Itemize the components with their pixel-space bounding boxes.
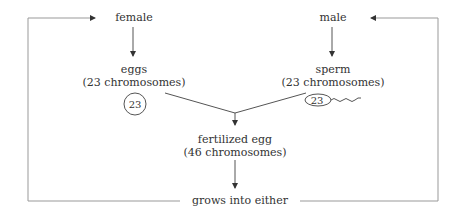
line-eggs-to-merge xyxy=(165,93,235,113)
sperm-title: sperm xyxy=(281,63,384,76)
sperm-subtitle: (23 chromosomes) xyxy=(281,76,384,89)
loop-arrow-right xyxy=(300,18,438,201)
fertilized-subtitle: (46 chromosomes) xyxy=(183,146,286,159)
line-sperm-to-merge xyxy=(235,93,306,113)
node-male: male xyxy=(319,11,346,24)
eggs-title: eggs xyxy=(82,63,185,76)
eggs-subtitle: (23 chromosomes) xyxy=(82,76,185,89)
node-fertilized-egg: fertilized egg (46 chromosomes) xyxy=(183,133,286,159)
egg-cell-icon: 23 xyxy=(124,93,146,115)
node-eggs: eggs (23 chromosomes) xyxy=(82,63,185,89)
node-grows-into-either: grows into either xyxy=(192,194,288,207)
sperm-cell-icon: 23 xyxy=(305,94,361,106)
diagram-canvas: 23 23 xyxy=(0,0,459,216)
fertilized-title: fertilized egg xyxy=(183,133,286,146)
node-sperm: sperm (23 chromosomes) xyxy=(281,63,384,89)
svg-text:23: 23 xyxy=(311,95,324,106)
node-female: female xyxy=(115,11,153,24)
loop-arrow-left xyxy=(28,18,180,201)
svg-text:23: 23 xyxy=(129,99,142,110)
